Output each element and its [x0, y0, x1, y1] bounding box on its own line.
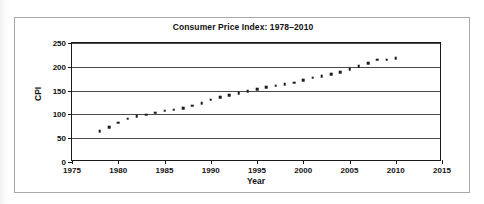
plot-area: 050100150200250 197519801985199019952000…: [71, 42, 441, 161]
data-point: [330, 73, 333, 76]
data-point: [191, 104, 194, 107]
y-tick-mark: [68, 43, 72, 44]
y-tick-label: 50: [57, 134, 66, 143]
data-point: [367, 62, 370, 65]
gridline: [72, 138, 440, 139]
data-point: [265, 86, 268, 89]
x-tick-mark: [165, 160, 166, 164]
data-point: [283, 83, 286, 86]
x-tick-label: 1975: [63, 166, 81, 175]
data-point: [339, 71, 342, 74]
chart-figure: Consumer Price Index: 1978–2010 CPI 0501…: [14, 17, 470, 193]
data-point: [274, 84, 277, 87]
data-point: [126, 117, 129, 120]
data-point: [237, 92, 240, 95]
x-tick-mark: [350, 160, 351, 164]
data-point: [348, 68, 351, 71]
data-point: [135, 115, 138, 118]
x-tick-label: 1985: [156, 166, 174, 175]
data-point: [246, 90, 249, 93]
data-point: [163, 109, 166, 112]
y-tick-mark: [68, 138, 72, 139]
y-tick-mark: [68, 91, 72, 92]
data-point: [209, 98, 212, 101]
x-tick-mark: [118, 160, 119, 164]
data-point: [228, 94, 231, 97]
data-point: [200, 102, 203, 105]
y-tick-label: 200: [53, 62, 66, 71]
data-point: [145, 113, 148, 116]
x-tick-label: 1980: [109, 166, 127, 175]
gridline: [72, 114, 440, 115]
y-tick-label: 100: [53, 110, 66, 119]
data-point: [117, 121, 120, 124]
x-tick-label: 2000: [294, 166, 312, 175]
data-point: [154, 111, 157, 114]
x-tick-label: 2010: [387, 166, 405, 175]
data-point: [311, 76, 314, 79]
data-point: [182, 107, 185, 110]
data-point: [320, 75, 323, 78]
x-tick-mark: [303, 160, 304, 164]
gridline: [72, 67, 440, 68]
chart-title: Consumer Price Index: 1978–2010: [15, 22, 471, 32]
x-axis-title: Year: [71, 176, 441, 186]
data-point: [219, 96, 222, 99]
data-point: [98, 130, 101, 133]
x-tick-mark: [396, 160, 397, 164]
x-tick-label: 2015: [433, 166, 451, 175]
data-point: [108, 126, 111, 129]
data-point: [302, 79, 305, 82]
x-tick-mark: [211, 160, 212, 164]
data-point: [357, 65, 360, 68]
data-point: [256, 88, 259, 91]
page-edge-artifact: [0, 0, 10, 204]
x-tick-mark: [72, 160, 73, 164]
x-tick-label: 1990: [202, 166, 220, 175]
gridline: [72, 43, 440, 44]
x-tick-mark: [257, 160, 258, 164]
y-axis-title: CPI: [33, 87, 43, 101]
x-tick-label: 2005: [341, 166, 359, 175]
data-point: [376, 58, 379, 61]
data-point: [394, 57, 397, 60]
x-tick-label: 1995: [248, 166, 266, 175]
data-point: [172, 109, 175, 112]
data-point: [293, 81, 296, 84]
data-point: [385, 59, 388, 62]
y-tick-label: 250: [53, 39, 66, 48]
y-tick-mark: [68, 114, 72, 115]
y-tick-mark: [68, 67, 72, 68]
y-tick-label: 150: [53, 86, 66, 95]
x-tick-mark: [442, 160, 443, 164]
